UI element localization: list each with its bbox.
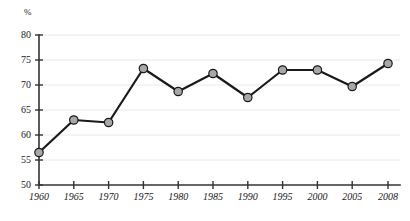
data-point-marker [244,93,252,101]
x-tick-label: 1980 [161,191,195,202]
y-tick-label: 50 [11,180,31,190]
data-point-marker [348,82,356,90]
x-tick-label: 2000 [300,191,334,202]
data-point-marker [278,66,286,74]
y-tick-label: 75 [11,55,31,65]
gridlines [39,35,400,160]
x-tick-label: 1985 [196,191,230,202]
data-point-marker [209,69,217,77]
data-point-markers [35,59,392,156]
data-point-marker [104,118,112,126]
y-tick-label: 60 [11,130,31,140]
data-point-marker [70,116,78,124]
x-tick-label: 1960 [22,191,56,202]
data-point-marker [174,87,182,95]
y-tick-label: 55 [11,155,31,165]
data-point-marker [139,64,147,72]
y-tick-label: 65 [11,105,31,115]
y-tick-label: 70 [11,80,31,90]
data-point-marker [384,59,392,67]
line-chart: % 50556065707580 19601965197019751980198… [0,0,410,221]
x-tick-label: 1990 [231,191,265,202]
x-tick-label: 1970 [92,191,126,202]
y-tick-label: 80 [11,30,31,40]
data-point-marker [35,148,43,156]
x-tick-label: 2008 [371,191,405,202]
x-tick-label: 1995 [266,191,300,202]
chart-canvas [0,0,410,221]
data-point-marker [313,66,321,74]
x-tick-label: 1975 [126,191,160,202]
x-tick-label: 2005 [335,191,369,202]
x-tick-label: 1965 [57,191,91,202]
